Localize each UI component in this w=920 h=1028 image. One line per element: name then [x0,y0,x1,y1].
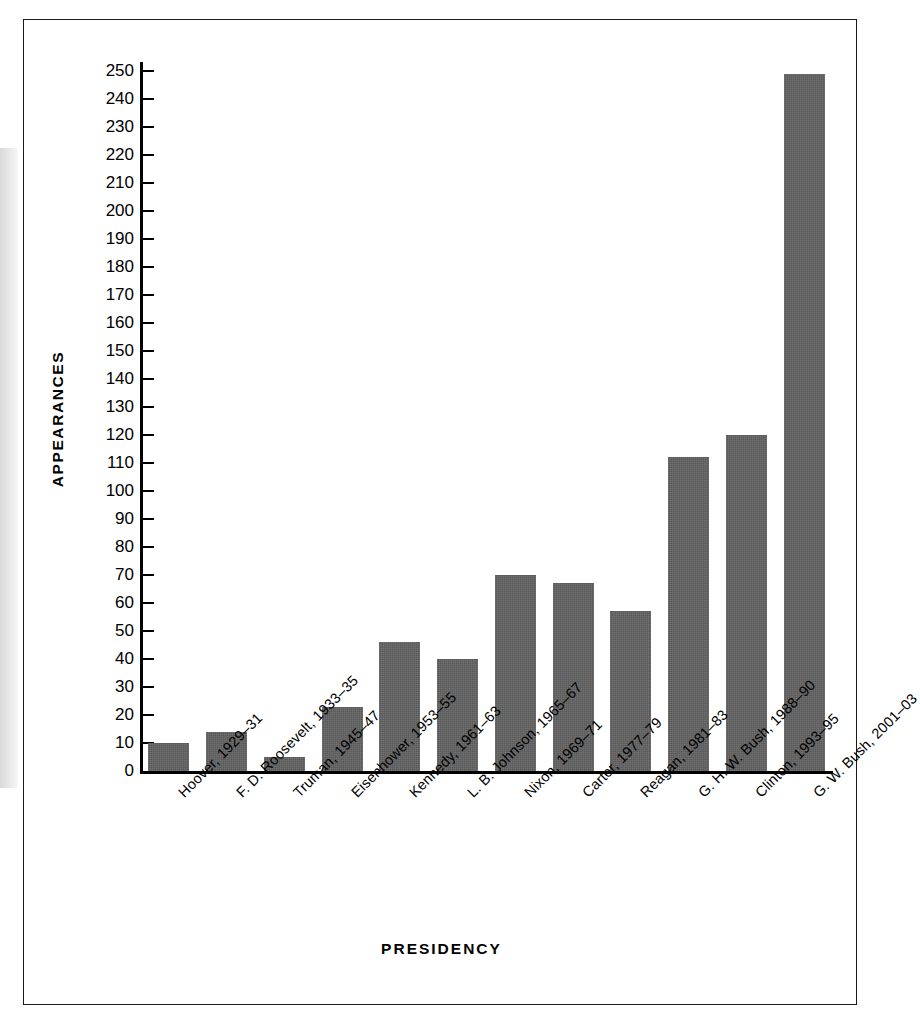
y-tick-mark [143,518,154,520]
y-tick-label: 50 [82,622,134,639]
y-tick-label-slot: 10 [82,743,134,744]
y-tick-mark [143,714,154,716]
y-tick-label-slot: 70 [82,575,134,576]
y-tick-label: 30 [82,678,134,695]
y-tick-label-slot: 210 [82,183,134,184]
bar [784,74,825,771]
y-tick-label-slot: 140 [82,379,134,380]
y-tick-label-slot: 90 [82,519,134,520]
y-tick-label-slot: 160 [82,323,134,324]
y-tick-label: 20 [82,706,134,723]
y-tick-label-slot: 230 [82,127,134,128]
bar [148,743,189,771]
y-tick-label-slot: 150 [82,351,134,352]
y-tick-mark [143,630,154,632]
x-axis-title: PRESIDENCY [0,940,883,958]
y-tick-label: 10 [82,734,134,751]
y-tick-mark [143,462,154,464]
y-tick-label-slot: 30 [82,687,134,688]
x-category-label: G. W. Bush, 2001–03 [810,690,920,800]
y-tick-label-slot: 120 [82,435,134,436]
y-tick-mark [143,266,154,268]
y-tick-label: 200 [82,202,134,219]
y-tick-label: 240 [82,90,134,107]
y-tick-label-slot: 60 [82,603,134,604]
y-tick-label: 210 [82,174,134,191]
y-tick-label: 110 [82,454,134,471]
y-tick-label: 90 [82,510,134,527]
y-tick-label: 140 [82,370,134,387]
y-tick-label: 230 [82,118,134,135]
y-tick-mark [143,98,154,100]
y-tick-label-slot: 220 [82,155,134,156]
y-tick-label: 150 [82,342,134,359]
y-tick-label-slot: 200 [82,211,134,212]
y-tick-label: 160 [82,314,134,331]
y-tick-mark [143,658,154,660]
y-tick-label: 60 [82,594,134,611]
y-tick-label-slot: 170 [82,295,134,296]
y-tick-mark [143,182,154,184]
y-tick-mark [143,294,154,296]
y-tick-mark [143,490,154,492]
y-tick-mark [143,70,154,72]
y-tick-label: 170 [82,286,134,303]
y-tick-label-slot: 130 [82,407,134,408]
y-tick-mark [143,210,154,212]
y-tick-label: 70 [82,566,134,583]
bar [726,435,767,771]
y-tick-label-slot: 50 [82,631,134,632]
y-tick-mark [143,238,154,240]
y-tick-label: 40 [82,650,134,667]
y-tick-label-slot: 180 [82,267,134,268]
y-tick-label: 190 [82,230,134,247]
y-tick-label: 180 [82,258,134,275]
y-tick-label: 0 [82,762,134,779]
y-tick-label-slot: 100 [82,491,134,492]
y-tick-label: 220 [82,146,134,163]
y-axis-line [140,62,143,774]
y-axis-title: APPEARANCES [49,309,67,529]
y-tick-label-slot: 240 [82,99,134,100]
y-tick-mark [143,686,154,688]
y-tick-mark [143,574,154,576]
y-tick-mark [143,378,154,380]
y-tick-mark [143,406,154,408]
y-tick-label-slot: 250 [82,71,134,72]
y-tick-mark [143,602,154,604]
y-tick-label-slot: 0 [82,771,134,772]
y-tick-mark [143,126,154,128]
y-tick-label-slot: 20 [82,715,134,716]
y-tick-label-slot: 110 [82,463,134,464]
y-tick-label: 100 [82,482,134,499]
y-tick-label: 120 [82,426,134,443]
y-tick-mark [143,350,154,352]
y-tick-label: 130 [82,398,134,415]
y-tick-mark [143,154,154,156]
y-tick-mark [143,546,154,548]
y-tick-mark [143,322,154,324]
y-tick-label-slot: 40 [82,659,134,660]
y-tick-label-slot: 80 [82,547,134,548]
y-tick-label-slot: 190 [82,239,134,240]
y-tick-label: 80 [82,538,134,555]
y-tick-label: 250 [82,62,134,79]
y-tick-mark [143,434,154,436]
